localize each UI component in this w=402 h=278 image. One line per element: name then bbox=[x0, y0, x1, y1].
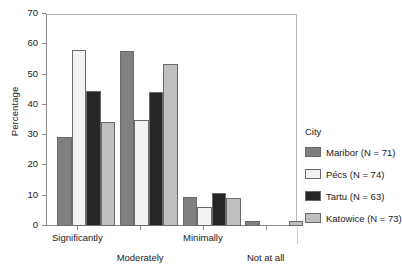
legend-title: City bbox=[305, 126, 402, 137]
bar bbox=[183, 197, 198, 226]
y-axis-tick-label: 30 bbox=[27, 128, 38, 139]
bar bbox=[149, 92, 164, 226]
bar bbox=[226, 198, 241, 226]
y-axis-tick-label: 60 bbox=[27, 37, 38, 48]
bar bbox=[134, 120, 149, 226]
x-axis-tick bbox=[266, 226, 267, 230]
legend: City Maribor (N = 71)Pécs (N = 74)Tartu … bbox=[305, 126, 402, 234]
plot-frame-right bbox=[296, 14, 297, 226]
y-axis-tick-label: 0 bbox=[33, 219, 38, 230]
y-axis-title: Percentage bbox=[9, 67, 20, 157]
bar bbox=[163, 64, 178, 226]
x-axis-tick-label: Moderately bbox=[90, 252, 190, 264]
x-axis-tick-label: Minimally bbox=[153, 232, 253, 244]
legend-entry: Maribor (N = 71) bbox=[305, 146, 402, 158]
plot-frame-right-extension bbox=[297, 226, 298, 244]
x-axis-tick bbox=[203, 226, 204, 230]
plot-frame-top bbox=[46, 14, 297, 15]
legend-label: Katowice (N = 73) bbox=[326, 213, 402, 224]
y-axis-tick: 70 bbox=[42, 13, 46, 14]
legend-swatch bbox=[305, 147, 321, 157]
bar-chart: Percentage 010203040506070 Significantly… bbox=[0, 0, 402, 278]
bar bbox=[57, 137, 72, 226]
bar bbox=[101, 122, 116, 226]
legend-swatch bbox=[305, 213, 321, 223]
x-axis-tick-label: Significantly bbox=[27, 232, 127, 244]
y-axis-tick: 20 bbox=[42, 164, 46, 165]
x-axis-tick bbox=[140, 226, 141, 230]
plot-area: 010203040506070 bbox=[46, 14, 297, 226]
bar bbox=[72, 50, 87, 226]
legend-entry: Tartu (N = 63) bbox=[305, 190, 402, 202]
legend-entry: Pécs (N = 74) bbox=[305, 168, 402, 180]
y-axis-tick: 50 bbox=[42, 74, 46, 75]
x-axis-tick-label: Not at all bbox=[216, 252, 316, 264]
y-axis-tick: 40 bbox=[42, 104, 46, 105]
y-axis-tick-label: 10 bbox=[27, 189, 38, 200]
bar bbox=[289, 221, 304, 226]
legend-label: Pécs (N = 74) bbox=[326, 169, 384, 180]
bar bbox=[245, 221, 260, 226]
y-axis-line bbox=[46, 14, 47, 226]
legend-label: Tartu (N = 63) bbox=[326, 191, 384, 202]
bar bbox=[212, 193, 227, 226]
y-axis-tick-label: 50 bbox=[27, 68, 38, 79]
legend-entries: Maribor (N = 71)Pécs (N = 74)Tartu (N = … bbox=[305, 146, 402, 224]
y-axis-tick-label: 70 bbox=[27, 7, 38, 18]
y-axis-tick: 0 bbox=[42, 225, 46, 226]
y-axis-tick-label: 40 bbox=[27, 98, 38, 109]
x-axis-tick bbox=[77, 226, 78, 230]
legend-label: Maribor (N = 71) bbox=[326, 147, 395, 158]
legend-swatch bbox=[305, 191, 321, 201]
bar bbox=[197, 207, 212, 226]
legend-entry: Katowice (N = 73) bbox=[305, 212, 402, 224]
y-axis-tick-label: 20 bbox=[27, 158, 38, 169]
bar bbox=[86, 91, 101, 226]
y-axis-tick: 10 bbox=[42, 195, 46, 196]
legend-swatch bbox=[305, 169, 321, 179]
y-axis-tick: 30 bbox=[42, 134, 46, 135]
y-axis-tick: 60 bbox=[42, 43, 46, 44]
bar bbox=[120, 51, 135, 226]
